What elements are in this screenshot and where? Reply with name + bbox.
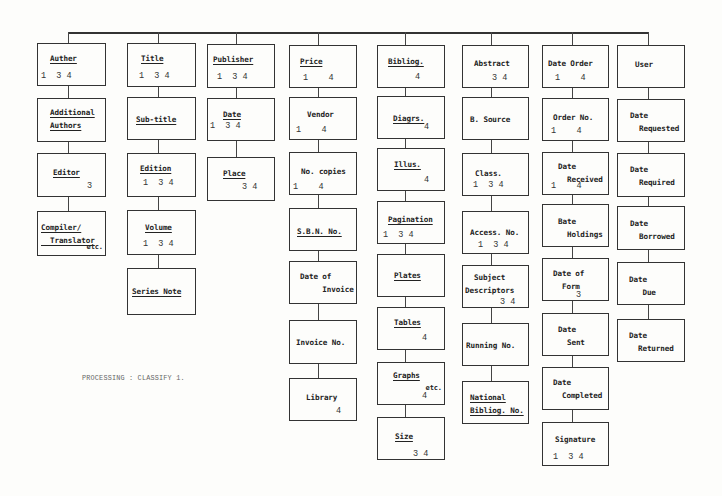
field-box-access-no: Access. No.1 3 4 [462,211,529,254]
field-label: Requested [630,124,679,134]
field-label: Date [553,378,571,388]
field-label: Class. [475,169,502,179]
connector-line [491,308,492,323]
field-label: Date of [300,272,331,282]
classification-codes: 3 4 [242,182,257,192]
field-label: Price [300,57,322,67]
field-box-date-requested: Date Requested [617,99,685,142]
connector-line [572,301,573,313]
top-connector-line [68,32,649,34]
field-box-date-required: Date Required [617,153,685,197]
field-box-no-copies: No. copies1 4 [289,152,357,195]
field-label: Place [223,169,245,179]
field-box-subject-descriptors: SubjectDescriptors3 4 [462,265,529,308]
connector-line [572,195,573,204]
classification-codes: 3 4 [500,297,515,307]
classification-codes: 1 3 4 [210,121,241,131]
classification-codes: 1 3 4 [478,240,509,250]
field-box-volume: Volume1 3 4 [127,210,196,255]
connector-line [648,197,649,206]
field-box-illus: Illus.4 [377,148,445,191]
field-label: Editor [53,168,80,178]
field-label: Subject [465,273,505,283]
field-label: Illus. [394,160,421,170]
field-box-s-b-n-no: S.B.N. No. [289,208,357,251]
field-label: Date [630,165,648,175]
field-label: B. Source [470,115,510,125]
field-box-date-of-invoice: Date of Invoice [289,261,357,304]
field-label: Date [629,275,647,285]
field-label: Diagrs. [393,114,424,124]
classification-codes: 1 3 4 [143,178,174,188]
classification-codes: 4 [424,175,429,185]
field-label: Invoice [300,285,354,295]
classification-codes: 4 [422,333,427,343]
classification-codes: 1 3 4 [41,71,72,81]
connector-line [648,142,649,153]
field-label: Library [306,393,337,403]
connector-line [648,250,649,262]
field-box-series-note: Series Note [127,268,196,315]
connector-line [318,195,319,208]
classification-codes: 3 4 [413,449,428,459]
field-label: Borrowed [630,232,675,242]
field-box-date-sent: Date Sent [542,313,609,356]
field-label: Volume [145,223,172,233]
field-label: Tables [394,318,421,328]
field-label: Vendor [307,110,334,120]
field-box-auther: Auther1 3 4 [37,43,106,86]
column-stem-line [236,32,237,44]
classification-codes: 1 3 4 [143,239,174,249]
field-label: Bate [558,217,576,227]
field-label: Edition [140,164,171,174]
field-box-date-received: Date Received1 4 [542,152,609,195]
field-box-additional-authors: AdditionalAuthors [37,98,106,142]
classification-codes: 1 4 [551,181,582,191]
field-box-national-bibliog-no: NationalBibliog. No. [462,381,529,424]
connector-line [236,88,237,98]
field-box-b-source: B. Source [462,97,529,140]
classification-codes: 4 [415,72,420,82]
field-box-date-due: Date Due [617,262,685,305]
field-box-tables: Tables4 [377,307,445,350]
field-label: Order No. [553,113,593,123]
field-box-date: Date1 3 4 [207,98,275,141]
field-label: Bibliog. [388,57,424,67]
field-label: Date [630,219,648,229]
connector-line [68,197,69,211]
connector-line [318,304,319,320]
field-label: No. copies [301,167,346,177]
field-box-date-order: Date Order1 4 [542,45,609,88]
field-label: Abstract [474,59,510,69]
field-label: Running No. [466,341,515,351]
field-label: Size [395,432,413,442]
classification-codes: 1 4 [303,73,334,83]
field-label: Authors [50,121,81,131]
connector-line [491,254,492,265]
field-box-sub-title: Sub-title [127,97,196,140]
connector-line [318,251,319,261]
connector-line [405,297,406,307]
connector-line [405,139,406,148]
field-label: Title [141,54,163,64]
processing-note: PROCESSING : CLASSIFY 1. [82,374,185,382]
connector-line [491,196,492,211]
field-box-graphs: Graphsetc.4 [377,362,445,405]
field-box-edition: Edition1 3 4 [127,153,196,197]
field-box-library: Library4 [289,378,357,421]
field-box-date-borrowed: Date Borrowed [617,206,685,250]
field-box-class: Class.1 3 4 [462,153,529,196]
classification-codes: 4 [336,406,341,416]
field-box-size: Size3 4 [377,417,445,460]
field-box-price: Price1 4 [289,45,357,88]
classification-codes: 3 [87,181,92,191]
field-box-invoice-no: Invoice No. [289,320,357,364]
classification-codes: 3 4 [492,73,507,83]
connector-line [491,88,492,97]
field-box-date-returned: Date Returned [617,319,685,362]
field-label: Completed [553,391,602,401]
field-box-vendor: Vendor1 4 [289,97,357,140]
field-label: Access. No. [470,228,519,238]
field-label: S.B.N. No. [297,227,342,237]
field-label: Sent [558,338,585,348]
